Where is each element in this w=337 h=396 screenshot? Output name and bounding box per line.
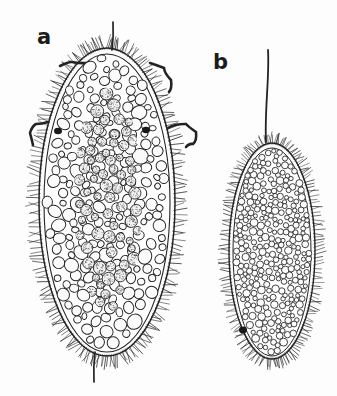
figure-label-a: a <box>37 27 51 48</box>
specimen-illustration-canvas <box>0 0 337 396</box>
specimen-b-pigment-spots <box>239 327 247 334</box>
figure-container: a b <box>0 0 337 396</box>
figure-label-b: b <box>213 52 228 73</box>
